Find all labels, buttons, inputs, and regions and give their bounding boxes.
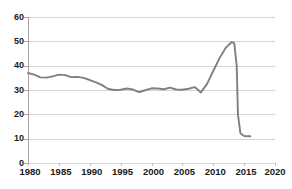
- data-line-series-1: [28, 42, 250, 136]
- series-layer: [0, 0, 292, 189]
- line-chart: 60 50 40 30 20 10 0 1980 1985 1990 1995 …: [0, 0, 292, 189]
